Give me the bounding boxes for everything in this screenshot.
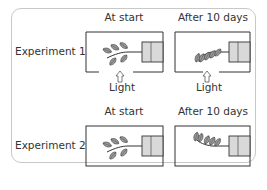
exp2-start-panel bbox=[86, 126, 163, 166]
shoot-bent-down-icon bbox=[194, 48, 229, 63]
clamp-icon bbox=[229, 136, 250, 156]
diagram-artwork bbox=[0, 0, 267, 190]
clamp-icon bbox=[229, 42, 250, 62]
clamp-icon bbox=[142, 136, 163, 156]
light-arrow-icon bbox=[116, 71, 124, 82]
exp2-after-panel bbox=[175, 126, 250, 166]
clamp-icon bbox=[142, 42, 163, 62]
light-arrow-icon bbox=[203, 71, 211, 82]
exp1-start-panel bbox=[86, 32, 163, 82]
shoot-icon bbox=[102, 41, 142, 66]
shoot-bent-up-icon bbox=[193, 132, 229, 148]
exp1-after-panel bbox=[175, 32, 250, 82]
shoot-icon bbox=[102, 135, 142, 160]
